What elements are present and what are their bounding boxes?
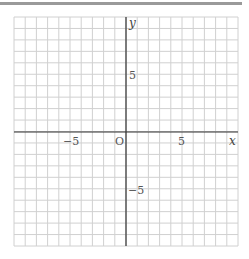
y-tick-5: 5 <box>129 69 136 82</box>
coordinate-plane: y x O −5 5 5 −5 <box>0 0 249 259</box>
y-axis-label: y <box>128 16 136 30</box>
x-tick-5: 5 <box>178 135 185 148</box>
origin-label: O <box>115 135 124 148</box>
y-tick-neg5: −5 <box>128 184 144 197</box>
x-tick-neg5: −5 <box>63 135 79 148</box>
x-axis-label: x <box>229 134 236 148</box>
